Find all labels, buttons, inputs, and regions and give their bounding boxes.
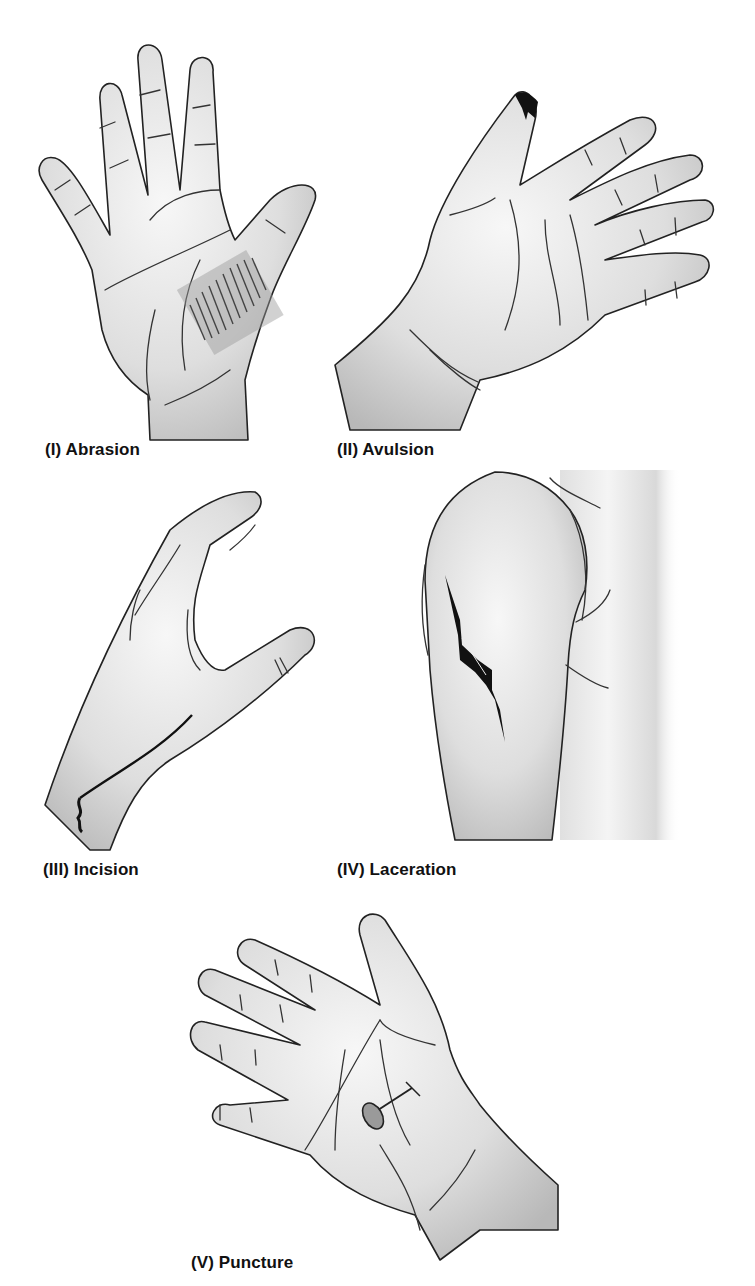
panel-puncture [180,900,560,1260]
label-avulsion: (II) Avulsion [337,440,434,460]
puncture-hand-illustration [180,900,560,1260]
incision-hand-illustration [30,480,350,860]
abrasion-hand-illustration [30,40,330,440]
laceration-arm-illustration [400,470,755,860]
label-abrasion: (I) Abrasion [45,440,140,460]
panel-abrasion [30,40,330,440]
label-incision: (III) Incision [43,860,139,880]
label-puncture: (V) Puncture [191,1253,293,1273]
avulsion-hand-illustration [330,50,750,430]
panel-avulsion [330,50,750,430]
panel-laceration [400,470,755,860]
label-laceration: (IV) Laceration [337,860,457,880]
figure-page: (I) Abrasion (II) Avulsion [0,0,755,1286]
panel-incision [30,480,350,860]
